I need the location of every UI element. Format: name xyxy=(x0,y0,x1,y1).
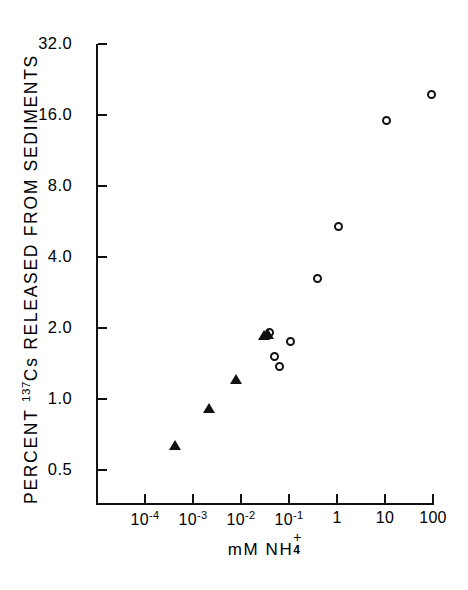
y-tick-label: 2.0 xyxy=(48,318,72,337)
data-point-filled-triangle xyxy=(230,374,242,384)
x-tick-label: 100 xyxy=(398,509,468,527)
y-tick-label: 0.5 xyxy=(48,460,72,479)
data-point-open-circle xyxy=(313,274,322,283)
data-point-open-circle xyxy=(286,337,295,346)
y-tick-mark xyxy=(98,398,107,400)
y-tick-mark xyxy=(98,327,107,329)
x-axis-title-plus: + xyxy=(293,530,303,544)
y-axis-title: PERCENT 137Cs RELEASED FROM SEDIMENTS xyxy=(20,9,42,549)
x-tick-label-base: 10 xyxy=(227,511,245,528)
x-axis-title-prefix: mM NH xyxy=(228,540,294,559)
y-tick-mark xyxy=(98,185,107,187)
x-tick-mark xyxy=(336,494,338,504)
x-tick-mark xyxy=(144,494,146,504)
figure-canvas: PERCENT 137Cs RELEASED FROM SEDIMENTS 0.… xyxy=(0,0,468,590)
y-tick-label: 1.0 xyxy=(48,389,72,408)
y-tick-mark xyxy=(98,43,107,45)
x-tick-mark xyxy=(192,494,194,504)
y-tick-mark xyxy=(98,469,107,471)
x-axis-title-subscript: 4 xyxy=(293,544,301,556)
y-axis-title-superscript: 137 xyxy=(20,381,32,402)
data-point-filled-triangle xyxy=(169,440,181,450)
data-point-open-circle xyxy=(382,116,391,125)
data-point-open-circle xyxy=(270,352,279,361)
y-tick-label: 4.0 xyxy=(48,247,72,266)
y-tick-label: 32.0 xyxy=(38,34,72,53)
ammonium-charge-stack: +4 xyxy=(293,538,302,555)
data-point-open-circle xyxy=(427,90,436,99)
x-tick-label-base: 10 xyxy=(275,511,293,528)
data-point-open-circle xyxy=(334,222,343,231)
x-axis-title: mM NH+4 xyxy=(96,538,434,560)
x-tick-mark xyxy=(240,494,242,504)
y-tick-label: 16.0 xyxy=(38,105,72,124)
y-axis-title-rest: Cs RELEASED FROM SEDIMENTS xyxy=(21,54,41,381)
y-axis-title-main: PERCENT xyxy=(21,408,41,504)
y-tick-label: 8.0 xyxy=(48,176,72,195)
y-tick-mark xyxy=(98,114,107,116)
y-axis-title-container: PERCENT 137Cs RELEASED FROM SEDIMENTS xyxy=(0,0,56,590)
data-point-open-circle xyxy=(275,362,284,371)
y-tick-mark xyxy=(98,256,107,258)
x-tick-label-base: 10 xyxy=(179,511,197,528)
x-tick-label-base: 10 xyxy=(131,511,149,528)
data-point-filled-triangle xyxy=(203,403,215,413)
x-tick-mark xyxy=(288,494,290,504)
x-tick-mark xyxy=(384,494,386,504)
x-tick-mark xyxy=(432,494,434,504)
